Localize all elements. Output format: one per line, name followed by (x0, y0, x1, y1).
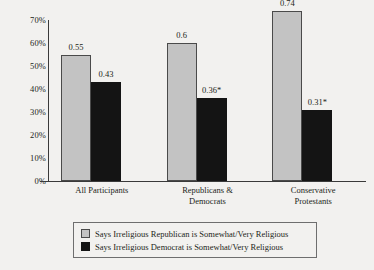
bar-group: 0.550.43 (49, 20, 155, 181)
x-axis-line (40, 181, 366, 182)
legend-swatch-icon-series-0 (81, 229, 90, 238)
bar-value-label: 0.31* (308, 98, 327, 107)
legend-label-series-0: Says Irreligious Republican is Somewhat/… (95, 229, 288, 239)
chart-legend: Says Irreligious Republican is Somewhat/… (73, 222, 317, 258)
bar-group: 0.740.31* (260, 20, 366, 181)
bar-chart: 70%60%50%40%30%20%10%0% 0.550.430.60.36*… (0, 0, 374, 270)
bar-value-label: 0.36* (202, 86, 221, 95)
y-axis-tick-labels: 70%60%50%40%30%20%10%0% (0, 20, 46, 181)
bar[interactable]: 0.6 (167, 43, 197, 181)
y-axis-tick-label: 40% (4, 85, 46, 94)
y-axis-tick-label: 20% (4, 131, 46, 140)
bar[interactable]: 0.36* (197, 98, 227, 181)
y-axis-tick-label: 50% (4, 62, 46, 71)
x-axis-category-label: ConservativeProtestants (260, 185, 366, 206)
x-axis-category-labels: All ParticipantsRepublicans &DemocratsCo… (49, 185, 366, 206)
legend-swatch-icon-series-1 (81, 242, 90, 251)
x-axis-category-label: Republicans &Democrats (155, 185, 261, 206)
y-axis-tick-label: 30% (4, 108, 46, 117)
bar-group-bars: 0.550.43 (49, 20, 155, 181)
bar-group: 0.60.36* (155, 20, 261, 181)
bar-value-label: 0.74 (280, 0, 295, 8)
bar[interactable]: 0.74 (272, 11, 302, 181)
y-axis-tick-label: 70% (4, 16, 46, 25)
legend-item-democrat: Says Irreligious Democrat is Somewhat/Ve… (81, 240, 310, 253)
y-axis-tick-label: 60% (4, 39, 46, 48)
bar-group-bars: 0.60.36* (155, 20, 261, 181)
bar[interactable]: 0.31* (302, 110, 332, 181)
bar-value-label: 0.6 (176, 31, 187, 40)
x-axis-category-label: All Participants (49, 185, 155, 206)
bar-group-bars: 0.740.31* (260, 20, 366, 181)
legend-item-republican: Says Irreligious Republican is Somewhat/… (81, 227, 310, 240)
y-axis-tick-label: 10% (4, 154, 46, 163)
bar-value-label: 0.43 (99, 70, 114, 79)
bar-groups: 0.550.430.60.36*0.740.31* (49, 20, 366, 181)
bar[interactable]: 0.43 (91, 82, 121, 181)
bar-value-label: 0.55 (69, 43, 84, 52)
bar[interactable]: 0.55 (61, 55, 91, 182)
legend-label-series-1: Says Irreligious Democrat is Somewhat/Ve… (95, 242, 283, 252)
